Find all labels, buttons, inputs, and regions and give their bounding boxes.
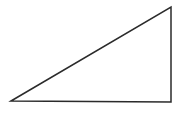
right-triangle-shape (11, 7, 171, 102)
diagram-canvas (0, 0, 180, 113)
